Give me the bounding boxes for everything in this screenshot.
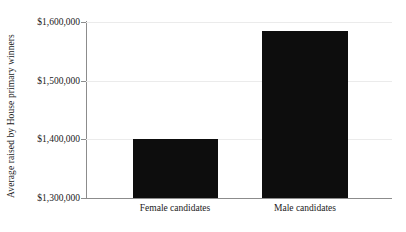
- y-tick-label-1400000: $1,400,000: [18, 134, 80, 144]
- bar-male-candidates: [262, 31, 348, 198]
- x-tick-label-female-candidates: Female candidates: [140, 203, 210, 213]
- x-tick-label-male-candidates: Male candidates: [274, 203, 336, 213]
- bar-chart: Average raised by House primary winners …: [0, 0, 406, 232]
- bar-female-candidates: [133, 139, 218, 198]
- y-axis-tick-labels: $1,600,000 $1,500,000 $1,400,000 $1,300,…: [18, 0, 80, 232]
- x-axis-spine: [86, 198, 392, 199]
- y-tick-label-1600000: $1,600,000: [18, 17, 80, 27]
- gridline-1600000: [86, 22, 392, 23]
- y-tick-label-1500000: $1,500,000: [18, 76, 80, 86]
- y-tick-label-1300000: $1,300,000: [18, 193, 80, 203]
- plot-area: [86, 22, 392, 198]
